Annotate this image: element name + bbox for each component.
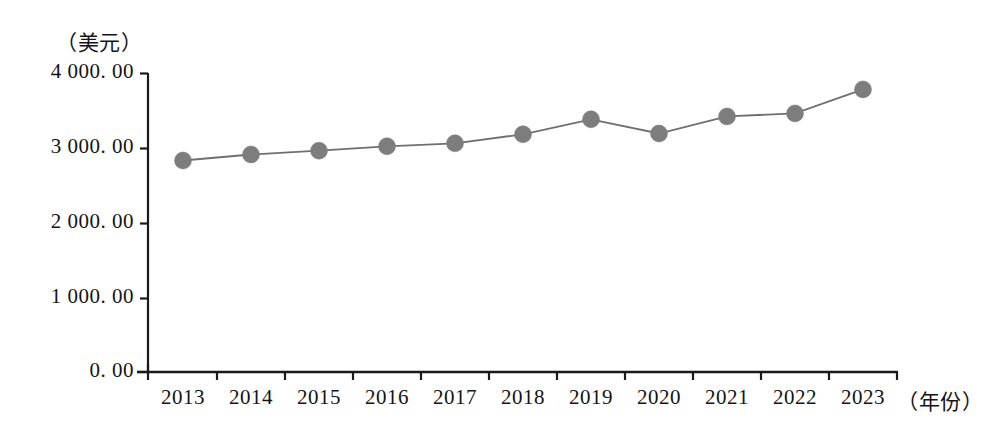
data-series-line — [183, 89, 863, 160]
data-point-2023 — [855, 81, 872, 98]
data-point-2017 — [447, 135, 464, 152]
data-point-2018 — [515, 126, 532, 143]
plot-area — [0, 0, 988, 433]
data-point-2021 — [719, 108, 736, 125]
data-point-2022 — [787, 105, 804, 122]
data-point-2013 — [175, 152, 192, 169]
data-point-2019 — [583, 111, 600, 128]
x-axis — [137, 364, 898, 380]
data-point-2014 — [243, 146, 260, 163]
data-point-2015 — [311, 142, 328, 159]
y-axis — [137, 73, 148, 372]
data-point-2020 — [651, 125, 668, 142]
line-chart: （美元） （年份） 4 000. 00 3 000. 00 2 000. 00 … — [0, 0, 988, 433]
data-point-markers — [175, 81, 872, 169]
data-point-2016 — [379, 138, 396, 155]
